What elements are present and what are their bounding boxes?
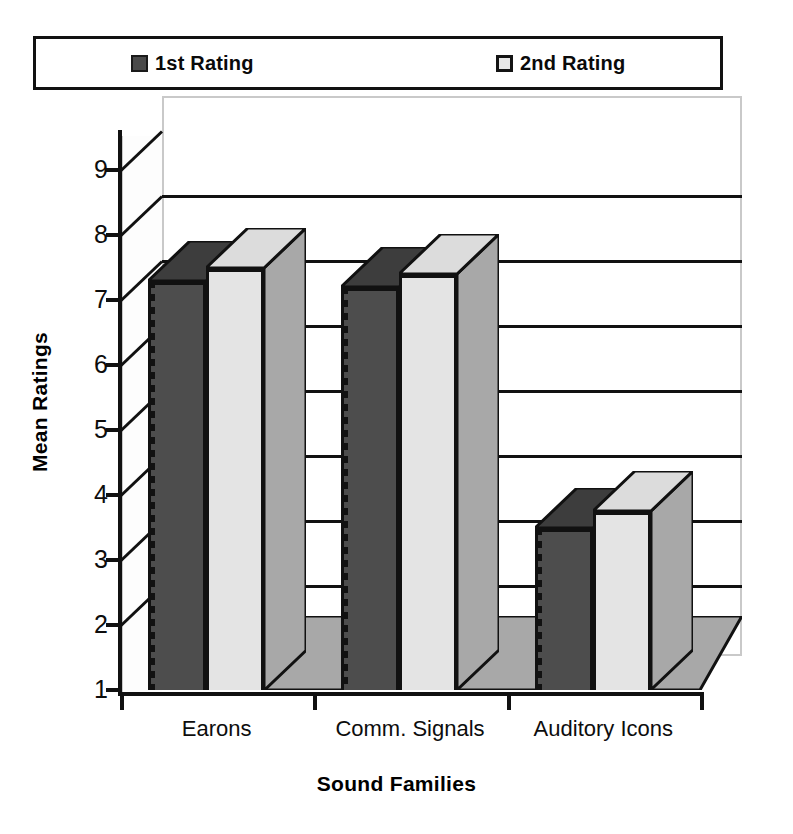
bar-front-top-edge <box>596 511 648 515</box>
bar-dashed-left-edge <box>151 281 155 691</box>
y-tick-label-6: 6 <box>74 352 108 377</box>
x-tick-1 <box>313 692 317 710</box>
y-axis-title: Mean Ratings <box>28 302 52 502</box>
y-tick-2 <box>106 623 122 627</box>
x-tick-2 <box>507 692 511 710</box>
y-tick-9 <box>106 168 122 172</box>
bar-front-face <box>593 511 651 690</box>
bar-dashed-left-edge <box>344 287 348 690</box>
x-tick-3 <box>700 692 704 710</box>
x-axis-line <box>118 692 702 696</box>
bar-front-top-edge <box>538 528 590 532</box>
y-tick-label-8: 8 <box>74 222 108 247</box>
y-tick-label-9: 9 <box>74 157 108 182</box>
bar-series1-group1 <box>148 241 206 691</box>
y-tick-label-3: 3 <box>74 547 108 572</box>
bar-front-top-edge <box>402 274 454 278</box>
bar-series2-group1 <box>206 228 264 691</box>
bar-front-face <box>206 268 264 691</box>
bar-top-cap <box>399 234 499 278</box>
x-tick-0 <box>120 692 124 710</box>
y-tick-label-2: 2 <box>74 612 108 637</box>
bar-top-cap <box>593 471 693 515</box>
y-tick-7 <box>106 298 122 302</box>
y-tick-4 <box>106 493 122 497</box>
y-tick-label-1: 1 <box>74 677 108 702</box>
bar-series1-group2 <box>341 247 399 690</box>
y-tick-label-5: 5 <box>74 417 108 442</box>
bar-front-face <box>148 281 206 691</box>
y-tick-6 <box>106 363 122 367</box>
bar-front-top-edge <box>209 268 261 272</box>
bar-series2-group2 <box>399 234 457 690</box>
bar-front-face <box>399 274 457 690</box>
plot-area: 123456789 EaronsComm. SignalsAuditory Ic… <box>0 0 793 834</box>
bar-dashed-left-edge <box>538 528 542 691</box>
y-tick-8 <box>106 233 122 237</box>
chart-figure: 1st Rating 2nd Rating 123456789 EaronsCo… <box>0 0 793 834</box>
x-axis-title: Sound Families <box>0 772 793 796</box>
bar-front-top-edge <box>151 281 203 285</box>
y-axis-line <box>118 130 122 696</box>
bar-side-face <box>264 228 306 691</box>
y-tick-3 <box>106 558 122 562</box>
y-tick-label-7: 7 <box>74 287 108 312</box>
gridline-8 <box>162 195 742 198</box>
bar-side-face <box>457 234 499 690</box>
bar-series1-group3 <box>535 488 593 691</box>
bar-front-face <box>535 528 593 691</box>
y-tick-label-4: 4 <box>74 482 108 507</box>
bar-front-top-edge <box>344 287 396 291</box>
y-tick-5 <box>106 428 122 432</box>
x-category-label-3: Auditory Icons <box>487 716 720 742</box>
bar-front-face <box>341 287 399 690</box>
bar-series2-group3 <box>593 471 651 690</box>
y-tick-label-group: 123456789 <box>60 0 108 834</box>
bar-top-cap <box>206 228 306 272</box>
